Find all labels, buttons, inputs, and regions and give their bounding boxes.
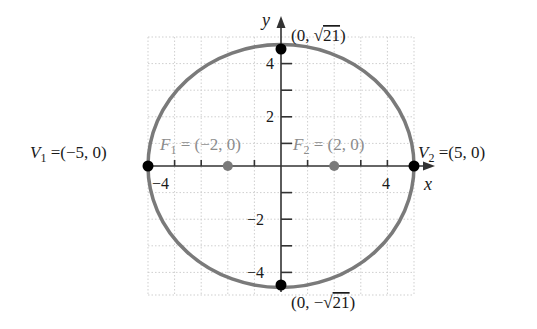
ellipse-diagram: x y −4 4 4 2 −2 −4 V1 =(−5, 0) V2 =(5, 0… — [0, 0, 537, 329]
focus-f2-label: F2 = (2, 0) — [292, 135, 364, 157]
covertex-top-label: (0, √21) — [291, 26, 346, 45]
x-tick-4: 4 — [382, 175, 390, 192]
covertex-top-point — [276, 44, 287, 55]
covertex-bottom-point — [276, 280, 287, 291]
vertex-v2-point — [409, 161, 420, 172]
vertex-v2-label: V2 =(5, 0) — [418, 143, 485, 165]
y-axis — [281, 25, 292, 292]
y-tick-2: 2 — [266, 108, 274, 125]
vertex-v1-label: V1 =(−5, 0) — [30, 143, 107, 165]
y-axis-label: y — [260, 10, 270, 30]
vertex-v1-point — [143, 161, 154, 172]
x-tick-neg4: −4 — [152, 175, 169, 192]
y-tick-neg4: −4 — [247, 264, 264, 281]
y-tick-neg2: −2 — [247, 211, 264, 228]
covertex-bottom-label: (0, −√21) — [291, 293, 355, 312]
focus-f2-point — [329, 161, 339, 171]
y-axis-arrow-icon — [277, 16, 286, 28]
y-tick-4: 4 — [266, 55, 274, 72]
x-axis-label: x — [423, 174, 432, 194]
focus-f1-label: F1 = (−2, 0) — [159, 135, 241, 157]
x-axis — [148, 160, 425, 166]
focus-f1-point — [223, 161, 233, 171]
